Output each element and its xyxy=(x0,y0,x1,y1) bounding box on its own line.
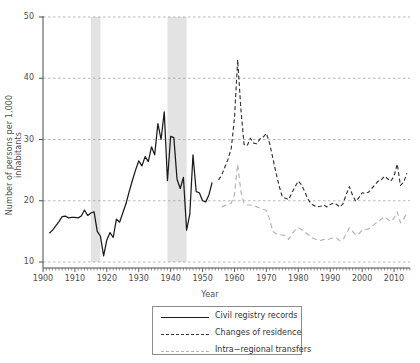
legend-swatch-light-dashed-line xyxy=(161,351,209,352)
data-series-group xyxy=(49,60,406,256)
series-line-intra-regional-transfers xyxy=(222,164,407,241)
legend-item-intra-regional-transfers: Intra−regional transfers xyxy=(153,344,301,359)
y-tick-label-50: 50 xyxy=(12,12,34,21)
legend-item-civil-registry-records: Civil registry records xyxy=(153,310,301,325)
y-tick-label-10: 10 xyxy=(12,257,34,266)
series-line-changes-of-residence xyxy=(219,60,407,207)
chart-figure: Number of persons per 1,000 inhabitants … xyxy=(0,0,420,363)
legend-swatch-dashed-line xyxy=(161,334,209,335)
series-line-civil-registry-records xyxy=(49,112,212,256)
y-tick-label-40: 40 xyxy=(12,73,34,82)
y-axis-title: Number of persons per 1,000 inhabitants xyxy=(5,80,23,230)
y-tick-marks xyxy=(39,17,43,262)
y-tick-label-30: 30 xyxy=(12,135,34,144)
legend-label: Civil registry records xyxy=(215,311,297,320)
legend-label: Changes of residence xyxy=(215,328,301,337)
x-axis-title: Year xyxy=(140,290,280,299)
chart-legend: Civil registry records Changes of reside… xyxy=(152,306,302,355)
legend-swatch-solid-line xyxy=(161,317,209,318)
x-tick-label-2010: 2010 xyxy=(374,274,414,283)
y-tick-label-20: 20 xyxy=(12,196,34,205)
legend-label: Intra−regional transfers xyxy=(215,345,311,354)
x-tick-marks xyxy=(43,268,410,272)
legend-item-changes-of-residence: Changes of residence xyxy=(153,327,301,342)
